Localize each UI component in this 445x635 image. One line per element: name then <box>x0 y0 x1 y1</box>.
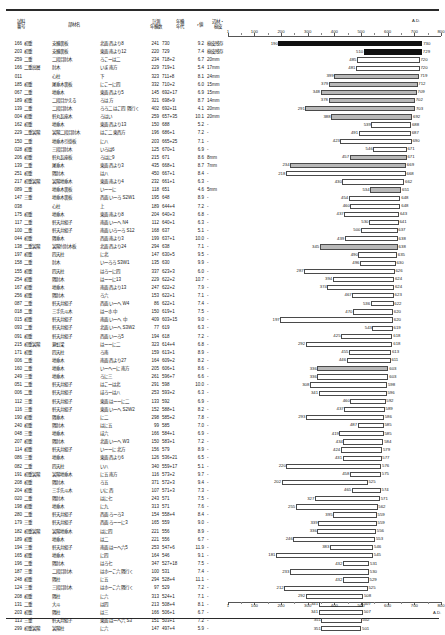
cell-member-name: 軒天井組子 <box>52 519 96 527</box>
cell-ring-count: 86 <box>141 300 159 308</box>
cell-ring-count: 347 <box>141 560 159 568</box>
cell-sample-no: 196 <box>6 560 22 568</box>
bar-end-label: 638 <box>398 235 406 243</box>
cell-ring-date: 640+1 <box>162 219 190 227</box>
table-row: 208初重隅柱に六313524+17.1- <box>4 593 228 601</box>
cell-position: 上 <box>100 203 144 211</box>
bar-row: 202525 <box>228 479 441 487</box>
cell-floor: 初重 <box>24 276 50 284</box>
cell-r-value: 4.1 <box>190 105 204 113</box>
cell-member-name: 軒丸瓦座板 <box>52 154 96 162</box>
figure-page: 試料番号 部材名 計測年輪数 年輪年代 r値 辺材・樹皮 A.D. 166初重支… <box>0 0 445 635</box>
cell-position: に六 <box>100 593 144 601</box>
header-ring-count: 計測年輪数 <box>145 19 167 29</box>
cell-sample-no: 190 <box>6 414 22 422</box>
bar-row: 339559 <box>228 519 441 527</box>
cell-sample-no: 086 <box>6 454 22 462</box>
table-row: 208初重隅肘木ろ五371572+39.4- <box>4 479 228 487</box>
bar-start-label: 530 <box>361 218 369 226</box>
cell-sample-no: 175 <box>6 211 22 219</box>
range-bar <box>317 374 388 379</box>
cell-member-name: 隅柱 <box>52 593 96 601</box>
bar-start-label: 339 <box>310 519 318 527</box>
table-row: 254初重隅肘木はーーに13229622+210.7- <box>4 276 228 284</box>
table-row: 015初重軒天井組子南面 いーへ 中409603+159.0- <box>4 316 228 324</box>
bar-end-label: 562 <box>378 503 386 511</box>
range-bar <box>321 618 361 623</box>
cell-sapwood: - <box>207 373 229 381</box>
cell-member-name: 二段目肘木 <box>52 105 96 113</box>
cell-sapwood: - <box>207 211 229 219</box>
axis-tick-label: 600 <box>384 29 391 34</box>
table-row: 112三重軒天井組子東面 はーーに二1335926.9- <box>4 398 228 406</box>
cell-member-name: 心柱 <box>52 203 96 211</box>
cell-r-value: 8.9 <box>190 349 204 357</box>
cell-r-value: 8.9 <box>190 194 204 202</box>
cell-r-value: 4.6 <box>190 186 204 194</box>
cell-sapwood: 24mm <box>207 73 229 81</box>
cell-sapwood: - <box>207 138 229 146</box>
cell-ring-count: 435 <box>141 162 159 170</box>
cell-position: ろはに9 <box>100 154 144 162</box>
cell-sapwood: - <box>207 406 229 414</box>
range-bar <box>315 496 380 501</box>
bar-end-label: 712 <box>418 80 426 88</box>
cell-ring-date: 556 <box>162 536 190 544</box>
axis-minor-tick <box>294 33 295 35</box>
axis-tick-label: 200 <box>277 29 284 34</box>
bar-row: 220576 <box>228 463 441 471</box>
cell-position: は三 <box>100 609 144 617</box>
cell-sapwood: 17mm <box>207 64 229 72</box>
range-bar <box>293 537 375 542</box>
cell-r-value: 8.9 <box>190 446 204 454</box>
cell-position: 南面 西より13 <box>100 284 144 292</box>
cell-sample-no: 208 <box>6 479 22 487</box>
cell-sapwood: - <box>207 414 229 422</box>
bar-row: 432531 <box>228 560 441 568</box>
cell-member-name: 三手先斗木 <box>52 308 96 316</box>
cell-ring-date: 619 <box>162 324 190 332</box>
range-bar <box>296 504 378 509</box>
cell-floor: 二重 <box>24 259 50 267</box>
range-bar <box>319 610 363 615</box>
cell-sample-no: 185 <box>6 81 22 89</box>
bar-start-label: 424 <box>333 446 341 454</box>
cell-sample-no: 189 <box>6 536 22 544</box>
range-bar <box>318 521 377 526</box>
table-row: 018二重三手先斗木はーホ 中150619+17.5- <box>4 308 228 316</box>
table-row: 179三重軒天井組子西面 ろーーに31655599.0- <box>4 519 228 527</box>
cell-floor: 初重 <box>24 284 50 292</box>
bar-start-label: 425 <box>333 332 341 340</box>
cell-floor: 初重 <box>24 154 50 162</box>
bar-start-label: 218 <box>278 170 286 178</box>
cell-sample-no: 191 <box>6 471 22 479</box>
cell-sapwood: - <box>207 463 229 471</box>
cell-ring-count: 321 <box>141 97 159 105</box>
bar-row: 431577 <box>228 454 441 462</box>
cell-ring-count: 150 <box>141 308 159 316</box>
cell-r-value: 7.1 <box>190 243 204 251</box>
bar-row: 446611 <box>228 357 441 365</box>
cell-position: 南面 いろーろ S12 <box>100 227 144 235</box>
cell-position: ろ五 <box>100 479 144 487</box>
cell-member-name: 地垂木 <box>52 503 96 511</box>
cell-position: 南面 はーへ六5 <box>100 544 144 552</box>
cell-floor: 二重 <box>24 89 50 97</box>
bar-start-label: 293 <box>298 413 306 421</box>
bar-start-label: 487 <box>350 421 358 429</box>
cell-floor: 初重 <box>24 422 50 430</box>
cell-ring-count: 118 <box>141 186 159 194</box>
axis-tick-label: 500 <box>357 29 364 34</box>
cell-r-value: 7.9 <box>190 284 204 292</box>
cell-r-value: 5.1 <box>190 227 204 235</box>
cell-position: 東面 西より13 <box>100 121 144 129</box>
range-bar <box>304 269 394 274</box>
cell-member-name: 地垂木 <box>52 536 96 544</box>
cell-r-value: 8.9 <box>190 528 204 536</box>
cell-r-value: 5.2 <box>190 121 204 129</box>
cell-r-value: 8.6 <box>190 154 204 162</box>
cell-ring-count: 152 <box>141 406 159 414</box>
cell-member-name: 隅肘木 <box>52 170 96 178</box>
axis-tick-label: 400 <box>331 603 338 608</box>
bar-end-label: 579 <box>382 446 390 454</box>
